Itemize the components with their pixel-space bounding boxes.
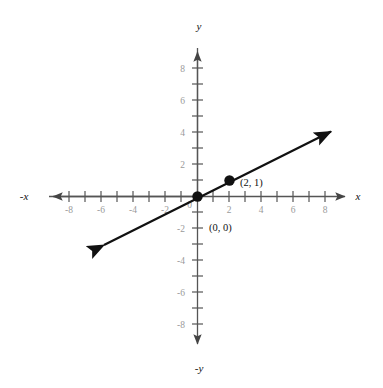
y-tick-label-8: 8 [180, 64, 185, 74]
y-tick-label--2: -2 [177, 224, 185, 234]
x-tick-label--8: -8 [65, 205, 73, 215]
y-tick-label--8: -8 [177, 320, 185, 330]
point-label-2-1: (2, 1) [240, 177, 263, 189]
x-tick-label--4: -4 [129, 205, 137, 215]
y-axis-label: y [196, 20, 202, 32]
x-tick-label--6: -6 [97, 205, 105, 215]
negative-x-axis-label: -x [20, 190, 29, 202]
y-tick-label--4: -4 [177, 256, 185, 266]
x-tick-label-4: 4 [259, 205, 264, 215]
coordinate-plane-figure: -8 -6 -4 -2 2 4 6 8 x -x [0, 0, 383, 388]
y-tick-label-2: 2 [180, 160, 185, 170]
data-point-origin [192, 191, 202, 201]
y-tick-label-6: 6 [180, 96, 185, 106]
data-point-2-1 [224, 175, 234, 185]
x-tick-label-8: 8 [323, 205, 328, 215]
negative-y-axis-label: -y [195, 362, 204, 374]
x-tick-label-6: 6 [291, 205, 296, 215]
x-axis-label: x [355, 190, 361, 202]
y-tick-label--6: -6 [177, 288, 185, 298]
x-tick-label-2: 2 [227, 205, 232, 215]
y-tick-label-4: 4 [180, 128, 185, 138]
point-label-0-0: (0, 0) [209, 222, 232, 234]
